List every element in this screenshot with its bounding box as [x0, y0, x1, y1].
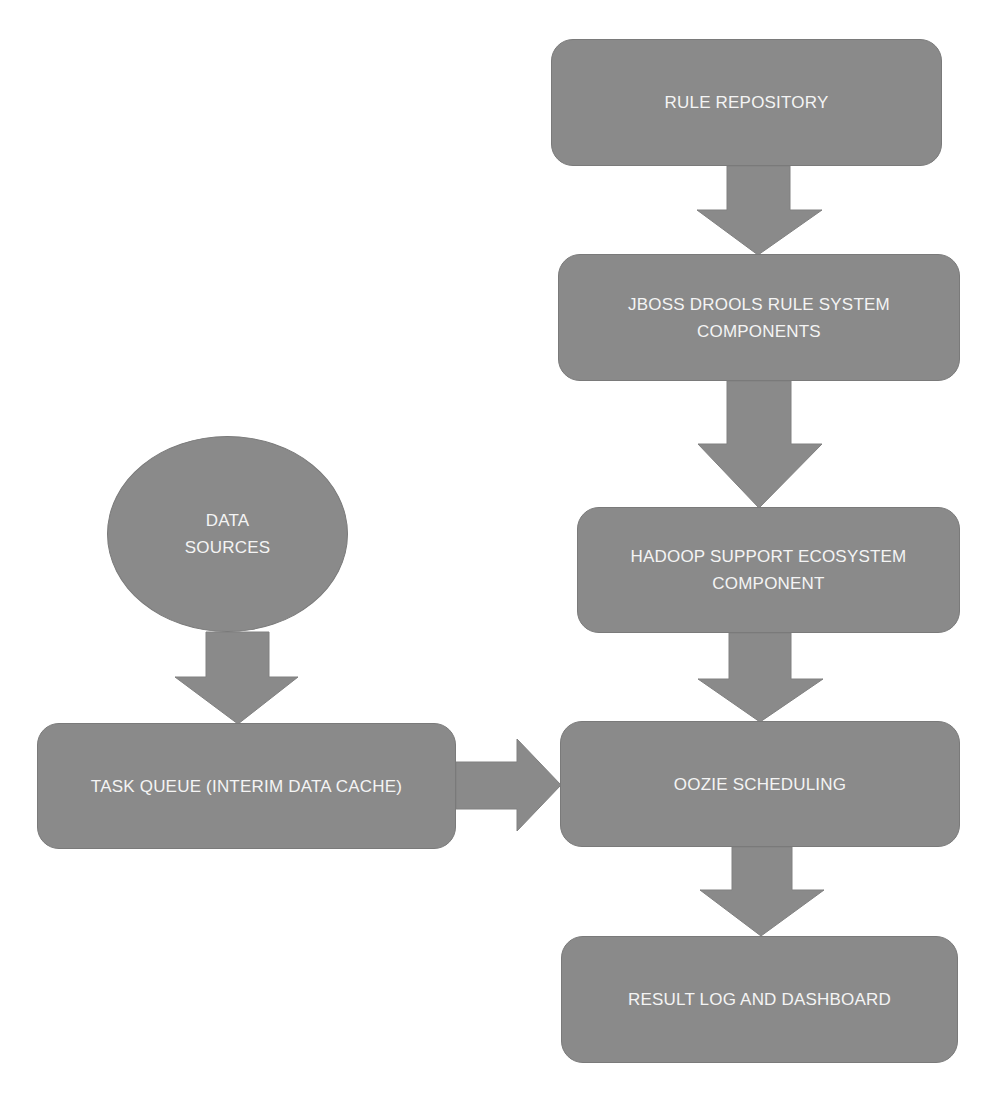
node-result-log: RESULT LOG AND DASHBOARD — [561, 936, 958, 1063]
node-label: HADOOP SUPPORT ECOSYSTEM COMPONENT — [631, 543, 907, 597]
arrow-right-icon — [456, 739, 561, 831]
node-oozie-scheduling: OOZIE SCHEDULING — [560, 721, 960, 847]
node-label: RESULT LOG AND DASHBOARD — [628, 986, 891, 1013]
node-label: TASK QUEUE (INTERIM DATA CACHE) — [91, 773, 402, 800]
arrow-down-icon — [697, 166, 822, 255]
node-hadoop-support: HADOOP SUPPORT ECOSYSTEM COMPONENT — [577, 507, 960, 633]
node-label: JBOSS DROOLS RULE SYSTEM COMPONENTS — [628, 291, 890, 345]
node-label: OOZIE SCHEDULING — [674, 771, 846, 798]
node-data-sources: DATA SOURCES — [107, 436, 348, 632]
flowchart-diagram: RULE REPOSITORY JBOSS DROOLS RULE SYSTEM… — [0, 0, 999, 1103]
node-jboss-drools: JBOSS DROOLS RULE SYSTEM COMPONENTS — [558, 254, 960, 381]
node-label: DATA SOURCES — [185, 507, 270, 561]
arrow-down-icon — [698, 381, 822, 508]
node-label: RULE REPOSITORY — [665, 89, 829, 116]
arrow-down-icon — [175, 632, 298, 724]
node-rule-repository: RULE REPOSITORY — [551, 39, 942, 166]
node-task-queue: TASK QUEUE (INTERIM DATA CACHE) — [37, 723, 456, 849]
arrow-down-icon — [700, 847, 824, 936]
arrow-down-icon — [698, 633, 823, 722]
